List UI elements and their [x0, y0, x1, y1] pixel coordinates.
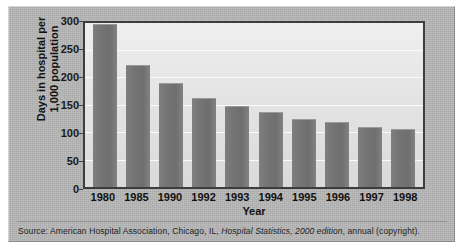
bar-slot: [88, 23, 121, 187]
source-prefix: Source: American Hospital Association, C…: [18, 226, 221, 236]
x-tick-label-1992: 1992: [187, 191, 221, 203]
y-tick-mark: [79, 189, 83, 190]
x-tick-label-1985: 1985: [120, 191, 154, 203]
chart-figure: Days in hospital per 1,000 population 30…: [0, 0, 469, 252]
source-suffix: , annual (copyright).: [343, 226, 420, 236]
y-axis-ticks: 300 250 200 150 100 50 0: [45, 21, 79, 189]
bar-slot: [121, 23, 154, 187]
bar-slot: [387, 23, 420, 187]
source-divider: [17, 221, 447, 222]
bar-slot: [154, 23, 187, 187]
bar-slot: [287, 23, 320, 187]
bar-1998[interactable]: [391, 129, 415, 187]
x-tick-label-1993: 1993: [220, 191, 254, 203]
plot-inner: [85, 23, 423, 187]
bar-slot: [320, 23, 353, 187]
bar-1995[interactable]: [292, 119, 316, 187]
source-italic: Hospital Statistics, 2000 edition: [221, 226, 342, 236]
bar-1996[interactable]: [325, 122, 349, 187]
bar-series: [85, 23, 423, 187]
y-tick-label-200: 200: [49, 72, 79, 83]
y-tick-label-150: 150: [49, 100, 79, 111]
bar-slot: [188, 23, 221, 187]
bar-slot: [221, 23, 254, 187]
x-tick-label-1990: 1990: [153, 191, 187, 203]
bar-1990[interactable]: [159, 83, 183, 187]
x-tick-label-1996: 1996: [321, 191, 355, 203]
bar-1985[interactable]: [126, 65, 150, 187]
bar-1994[interactable]: [259, 112, 283, 187]
y-tick-label-0: 0: [49, 184, 79, 195]
bar-slot: [354, 23, 387, 187]
y-tick-label-100: 100: [49, 128, 79, 139]
bar-slot: [254, 23, 287, 187]
y-tick-label-250: 250: [49, 44, 79, 55]
bar-1993[interactable]: [225, 106, 249, 187]
y-tick-label-50: 50: [49, 156, 79, 167]
bar-1992[interactable]: [192, 98, 216, 187]
x-tick-label-1995: 1995: [288, 191, 322, 203]
x-tick-label-1997: 1997: [355, 191, 389, 203]
source-note: Source: American Hospital Association, C…: [18, 226, 450, 236]
y-tick-label-300: 300: [49, 16, 79, 27]
x-tick-label-1998: 1998: [388, 191, 422, 203]
x-axis-ticks: 1980198519901992199319941995199619971998: [83, 191, 425, 203]
bar-1980[interactable]: [93, 24, 117, 187]
plot-area: [83, 21, 425, 189]
x-tick-label-1980: 1980: [86, 191, 120, 203]
x-axis-title: Year: [83, 205, 425, 217]
x-tick-label-1994: 1994: [254, 191, 288, 203]
bar-1997[interactable]: [358, 127, 382, 187]
